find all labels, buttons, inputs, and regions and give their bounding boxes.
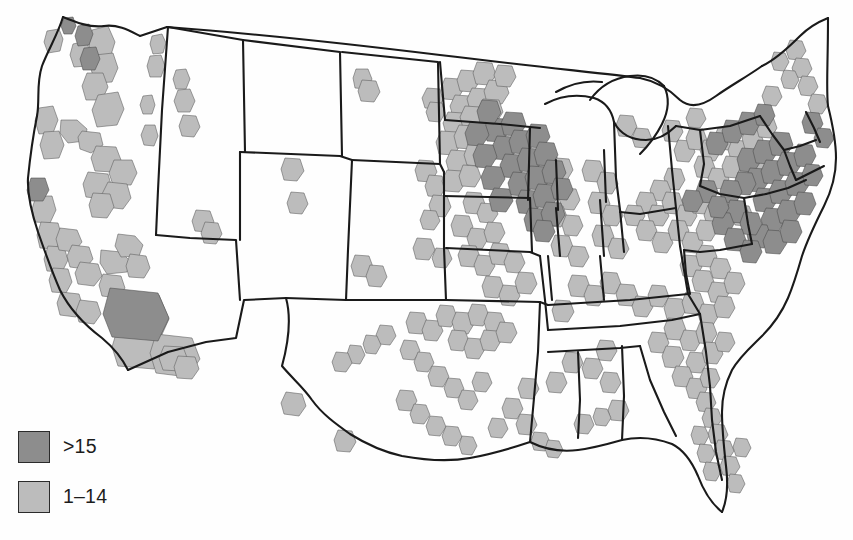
map-legend: >15 1–14 <box>18 428 107 528</box>
map-layer-counties-low <box>32 26 828 493</box>
legend-item-high: >15 <box>18 428 107 466</box>
legend-item-low: 1–14 <box>18 478 107 516</box>
legend-swatch-low <box>18 481 50 513</box>
us-county-choropleth <box>0 0 853 540</box>
legend-label-high: >15 <box>63 437 97 457</box>
legend-swatch-high <box>18 431 50 463</box>
legend-label-low: 1–14 <box>63 487 107 507</box>
map-figure: >15 1–14 <box>0 0 853 540</box>
